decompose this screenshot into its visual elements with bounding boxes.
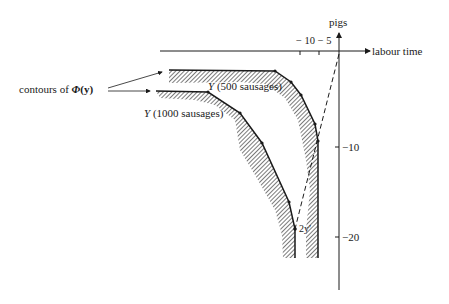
outer-contour-label: Y (500 sausages) — [208, 81, 282, 92]
outer-contour-text: (500 sausages) — [217, 80, 282, 92]
x-axis-label: labour time — [372, 46, 422, 57]
point-2y-label: 2y′ — [299, 224, 311, 234]
x-tick-labels: − 10 − 5 — [296, 36, 331, 47]
contours-annotation: contours of Φ(y) — [19, 84, 93, 95]
inner-contour-symbol: Y — [144, 107, 150, 119]
inner-contour-text: (1000 sausages) — [153, 107, 224, 119]
y-tick-label-10: −10 — [342, 142, 359, 153]
outer-contour-symbol: Y — [208, 80, 214, 92]
y-axis-label: pigs — [329, 17, 347, 28]
contour-arrow-upper — [108, 72, 162, 88]
contours-prefix: contours of — [19, 83, 72, 95]
phi-symbol: Φ — [72, 83, 81, 95]
y-tick-label-20: −20 — [342, 232, 359, 243]
inner-contour-label: Y (1000 sausages) — [144, 108, 223, 119]
phi-arg: (y) — [80, 83, 93, 95]
